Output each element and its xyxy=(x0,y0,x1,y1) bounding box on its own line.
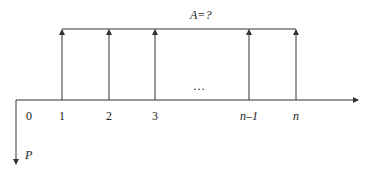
period-label-0: 0 xyxy=(26,110,32,122)
period-label-1: 1 xyxy=(59,110,65,122)
ellipsis: … xyxy=(193,80,205,92)
period-label-2: 2 xyxy=(106,110,112,122)
annuity-label: A=? xyxy=(190,9,211,21)
period-label-n: n xyxy=(293,110,299,122)
cash-flow-diagram xyxy=(0,0,367,172)
period-label-3: 3 xyxy=(152,110,158,122)
period-label-n-1: n–1 xyxy=(240,110,258,122)
present-value-label: P xyxy=(25,149,32,161)
